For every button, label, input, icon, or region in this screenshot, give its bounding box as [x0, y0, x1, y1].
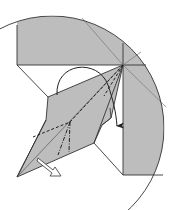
origami-diagram	[0, 0, 190, 210]
white-region-edge	[17, 65, 48, 97]
diagram-canvas	[0, 0, 190, 210]
top-paper-band	[17, 0, 167, 65]
